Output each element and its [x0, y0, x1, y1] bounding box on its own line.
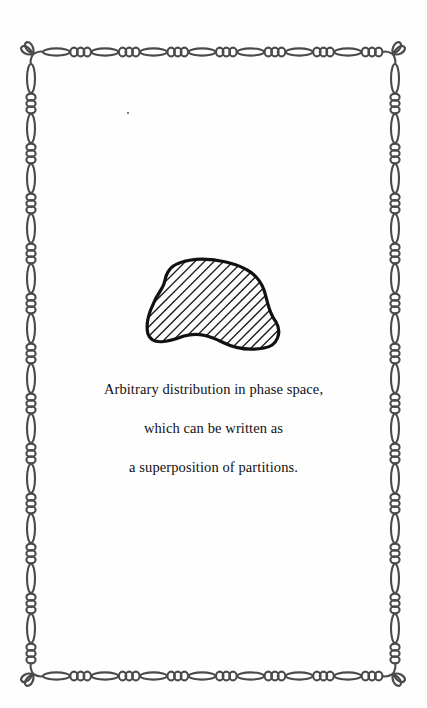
chain-link-oval [27, 164, 35, 193]
corner-ornament [383, 664, 405, 686]
chain-link-oval [27, 614, 35, 643]
chain-link-oval [391, 164, 399, 193]
chain-link-oval [286, 672, 313, 679]
chain-link-oval [27, 514, 35, 543]
scan-speck [127, 112, 129, 114]
chain-link-oval [391, 564, 399, 593]
caption-line: a superposition of partitions. [0, 459, 427, 476]
chain-link-oval [92, 48, 119, 55]
hatch-line [140, 250, 197, 360]
chain-link-oval [140, 672, 167, 679]
chain-link-oval [43, 672, 70, 679]
chain-link-oval [334, 672, 361, 679]
chain-link-oval [391, 514, 399, 543]
hatch-line [277, 250, 291, 360]
chain-link-oval [391, 314, 399, 343]
chain-link-oval [27, 564, 35, 593]
border-corners [21, 42, 405, 686]
chain-link-oval [27, 214, 35, 243]
hatch-line [267, 250, 290, 360]
border-top [43, 48, 382, 57]
caption-line: Arbitrary distribution in phase space, [0, 381, 427, 398]
corner-ornament [383, 42, 405, 64]
chain-link-oval [391, 64, 399, 93]
chain-link-oval [391, 614, 399, 643]
chain-link-oval [334, 48, 361, 55]
chain-link-oval [189, 48, 216, 55]
border-left [26, 64, 35, 663]
chain-link-oval [189, 672, 216, 679]
chain-link-oval [140, 48, 167, 55]
illustration-page: Arbitrary distribution in phase space, w… [0, 0, 427, 708]
chain-link-oval [391, 114, 399, 143]
chain-link-oval [27, 314, 35, 343]
hatch-line [286, 250, 290, 360]
corner-ornament [21, 42, 43, 64]
chain-link-oval [27, 64, 35, 93]
chain-link-oval [286, 48, 313, 55]
border-right [390, 64, 399, 663]
chain-link-oval [92, 672, 119, 679]
chain-link-oval [391, 264, 399, 293]
phase-space-distribution-figure [140, 250, 290, 360]
caption-line: which can be written as [0, 420, 427, 437]
chain-link-oval [43, 48, 70, 55]
chain-link-oval [237, 672, 264, 679]
chain-link-oval [27, 264, 35, 293]
chain-link-oval [391, 214, 399, 243]
corner-ornament [21, 664, 43, 686]
border-bottom [43, 672, 382, 681]
chain-link-oval [27, 114, 35, 143]
chain-link-oval [237, 48, 264, 55]
hatch-line [140, 250, 150, 360]
hatch-line [140, 250, 159, 360]
